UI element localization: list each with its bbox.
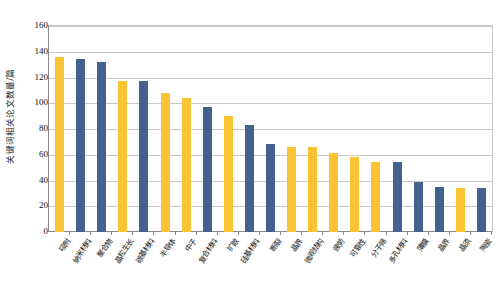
x-tick-label: 晶须 (456, 236, 473, 254)
x-tick-label: 碳基材料 (132, 236, 156, 265)
y-tick-label: 20 (4, 200, 48, 210)
x-tick-mark (407, 232, 408, 235)
bar (76, 59, 85, 232)
bar (393, 162, 402, 232)
bar (245, 125, 254, 232)
x-tick-mark (175, 232, 176, 235)
bar (329, 153, 338, 232)
x-tick-label: 晶粒生长 (111, 236, 135, 265)
bar (371, 162, 380, 232)
x-tick-label: 吸附 (55, 236, 72, 254)
bar (350, 157, 359, 232)
bar (203, 107, 212, 232)
x-tick-label: 多孔材料 (385, 236, 409, 265)
x-tick-label: 晶界 (287, 236, 304, 254)
bar (414, 182, 423, 232)
bar (477, 188, 486, 232)
x-tick-mark (386, 232, 387, 235)
x-tick-mark (238, 232, 239, 235)
y-tick-label: 80 (4, 123, 48, 133)
bar (287, 147, 296, 232)
x-tick-label: 复合材料 (195, 236, 219, 265)
y-tick-label: 160 (4, 20, 48, 30)
x-tick-mark (259, 232, 260, 235)
x-tick-label: 断裂 (266, 236, 283, 254)
y-tick-label: 120 (4, 72, 48, 82)
x-axis-labels: 吸附纳米材料聚合物晶粒生长碳基材料半导体中子复合材料扩散硅基材料断裂晶界微观结构… (48, 236, 493, 289)
x-tick-label: 微观结构 (301, 236, 325, 265)
x-tick-label: 中子 (182, 236, 199, 254)
x-tick-mark (449, 232, 450, 235)
bar (266, 144, 275, 232)
y-tick-label: 100 (4, 97, 48, 107)
y-tick-label: 60 (4, 149, 48, 159)
x-tick-mark (301, 232, 302, 235)
bar (224, 116, 233, 232)
x-tick-mark (364, 232, 365, 235)
x-tick-label: 半导体 (157, 236, 178, 259)
x-tick-label: 硅基材料 (237, 236, 261, 265)
bar (182, 98, 191, 232)
x-tick-label: 薄膜 (414, 236, 431, 254)
x-tick-mark (153, 232, 154, 235)
bar-chart: 关键词相关论文数量/篇 020406080100120140160 吸附纳米材料… (0, 0, 504, 289)
y-tick-label: 0 (4, 226, 48, 236)
bar-series (49, 26, 492, 232)
x-tick-mark (69, 232, 70, 235)
bar (97, 62, 106, 232)
x-tick-label: 陶瓷 (477, 236, 494, 254)
y-axis-ticks: 020406080100120140160 (0, 25, 48, 232)
y-tick-label: 140 (4, 46, 48, 56)
x-tick-mark (343, 232, 344, 235)
x-tick-label: 纳米材料 (69, 236, 93, 265)
bar (161, 93, 170, 232)
x-tick-mark (470, 232, 471, 235)
x-tick-label: 扩散 (224, 236, 241, 254)
x-tick-mark (111, 232, 112, 235)
bar (55, 57, 64, 232)
x-tick-label: 聚合物 (93, 236, 114, 259)
x-tick-mark (491, 232, 492, 235)
bar (118, 81, 127, 232)
x-tick-mark (322, 232, 323, 235)
x-tick-mark (428, 232, 429, 235)
x-tick-mark (132, 232, 133, 235)
bar (139, 81, 148, 232)
bar (456, 188, 465, 232)
y-tick-label: 40 (4, 175, 48, 185)
x-tick-label: 疲劳 (329, 236, 346, 254)
x-tick-mark (90, 232, 91, 235)
x-tick-label: 晶界 (435, 236, 452, 254)
x-tick-mark (280, 232, 281, 235)
x-tick-mark (217, 232, 218, 235)
x-tick-label: 分子筛 (368, 236, 389, 259)
bar (308, 147, 317, 232)
x-tick-mark (196, 232, 197, 235)
x-tick-label: 可靠性 (347, 236, 368, 259)
bar (435, 187, 444, 232)
